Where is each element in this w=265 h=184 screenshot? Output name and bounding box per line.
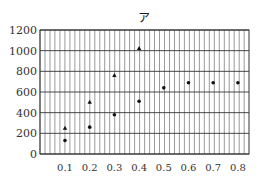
x-tick-label: 0.7 — [205, 162, 221, 173]
x-tick-label: 0.2 — [82, 162, 98, 173]
y-tick-label: 600 — [16, 86, 37, 99]
y-axis-ticks: 020040060080010001200 — [9, 24, 37, 161]
dot-marker — [137, 100, 141, 104]
dot-marker — [113, 113, 117, 117]
x-tick-label: 0.5 — [156, 162, 172, 173]
y-tick-label: 800 — [16, 65, 37, 78]
y-tick-label: 1000 — [9, 45, 37, 58]
grid — [40, 30, 249, 154]
scatter-chart: ア 020040060080010001200 0.10.20.30.40.50… — [0, 0, 265, 184]
x-tick-label: 0.4 — [131, 162, 147, 173]
chart-title: ア — [138, 11, 150, 25]
y-tick-label: 0 — [30, 148, 37, 161]
y-tick-label: 200 — [16, 127, 37, 140]
dot-marker — [236, 81, 240, 85]
y-tick-label: 1200 — [9, 24, 37, 37]
dot-marker — [187, 81, 191, 85]
x-tick-label: 0.3 — [106, 162, 122, 173]
dot-marker — [211, 81, 215, 85]
dot-marker — [162, 86, 166, 90]
triangle-marker — [112, 73, 116, 77]
dot-marker — [88, 125, 92, 129]
triangle-marker — [63, 126, 67, 130]
x-tick-label: 0.1 — [57, 162, 73, 173]
x-tick-label: 0.8 — [230, 162, 246, 173]
dot-marker — [63, 139, 67, 143]
x-tick-label: 0.6 — [181, 162, 197, 173]
y-tick-label: 400 — [16, 107, 37, 120]
x-axis-ticks: 0.10.20.30.40.50.60.70.8 — [57, 162, 246, 173]
triangle-marker — [88, 100, 92, 104]
triangle-marker — [137, 46, 141, 50]
data-points — [63, 46, 240, 142]
